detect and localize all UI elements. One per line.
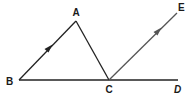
ray-ce xyxy=(109,13,177,80)
point-label-d: D xyxy=(174,84,181,95)
point-label-a: A xyxy=(73,7,80,18)
point-label-b: B xyxy=(6,76,13,87)
point-label-e: E xyxy=(178,2,185,13)
geometry-figure: A B C D E xyxy=(0,0,192,98)
segment-ac xyxy=(76,21,109,80)
point-label-c: C xyxy=(106,84,113,95)
parallel-arrow-icon xyxy=(45,45,53,53)
